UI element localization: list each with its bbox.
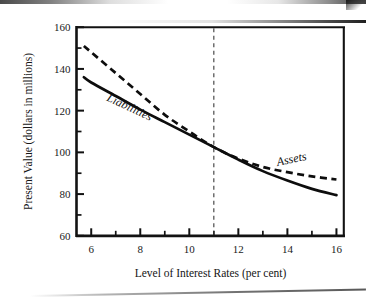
- y-tick-label-160: 160: [54, 21, 71, 33]
- y-axis-title: Present Value (dollars in millions): [22, 53, 35, 210]
- y-tick-label-80: 80: [60, 188, 72, 200]
- assets-label: Assets: [274, 149, 308, 169]
- x-tick-label-14: 14: [282, 243, 294, 255]
- x-axis-title: Level of Interest Rates (per cent): [135, 267, 287, 280]
- x-tick-label-12: 12: [233, 243, 244, 255]
- y-axis-tick-labels: 6080100120140160: [54, 21, 71, 242]
- figure-container: 6080100120140160 6810121416 LiabilitiesA…: [0, 0, 366, 307]
- y-tick-label-120: 120: [54, 105, 71, 117]
- data-series-group: [84, 46, 337, 195]
- y-tick-label-100: 100: [54, 146, 71, 158]
- series-annotations-group: LiabilitiesAssets: [104, 90, 308, 169]
- liabilities-label: Liabilities: [104, 90, 155, 124]
- y-tick-label-140: 140: [54, 63, 71, 75]
- x-tick-label-6: 6: [88, 243, 94, 255]
- y-tick-label-60: 60: [60, 230, 72, 242]
- x-tick-label-8: 8: [138, 243, 144, 255]
- x-tick-label-16: 16: [331, 243, 343, 255]
- x-axis-tick-labels: 6810121416: [88, 243, 342, 255]
- line-chart: 6080100120140160 6810121416 LiabilitiesA…: [0, 0, 366, 307]
- x-tick-label-10: 10: [184, 243, 196, 255]
